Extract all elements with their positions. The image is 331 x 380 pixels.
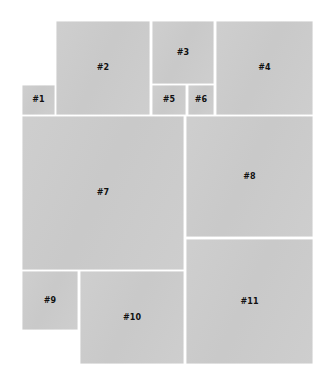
packed-rect-label: #1 [32,96,44,104]
packed-rect-label: #10 [123,314,141,322]
packed-rect-label: #4 [258,64,270,72]
packed-rect-label: #8 [243,173,255,181]
packed-rect-6[interactable]: #6 [188,85,214,115]
packed-rect-label: #6 [195,96,207,104]
packed-rect-2[interactable]: #2 [56,21,150,115]
packed-rect-label: #11 [240,298,258,306]
packed-rect-5[interactable]: #5 [152,85,186,115]
packed-rect-11[interactable]: #11 [186,239,313,364]
packed-rect-3[interactable]: #3 [152,21,214,84]
packed-rect-label: #7 [97,189,109,197]
packed-rect-4[interactable]: #4 [216,21,313,115]
packed-rect-label: #3 [177,49,189,57]
packed-rect-8[interactable]: #8 [186,116,313,237]
rectangle-packing-canvas: #1#2#3#4#5#6#7#8#9#10#11 [0,0,331,380]
packed-rect-7[interactable]: #7 [22,116,184,270]
packed-rect-9[interactable]: #9 [22,271,78,330]
packed-rect-label: #2 [97,64,109,72]
packed-rect-label: #5 [163,96,175,104]
packed-rect-label: #9 [44,297,56,305]
packed-rect-10[interactable]: #10 [80,271,184,364]
packed-rect-1[interactable]: #1 [22,85,55,115]
